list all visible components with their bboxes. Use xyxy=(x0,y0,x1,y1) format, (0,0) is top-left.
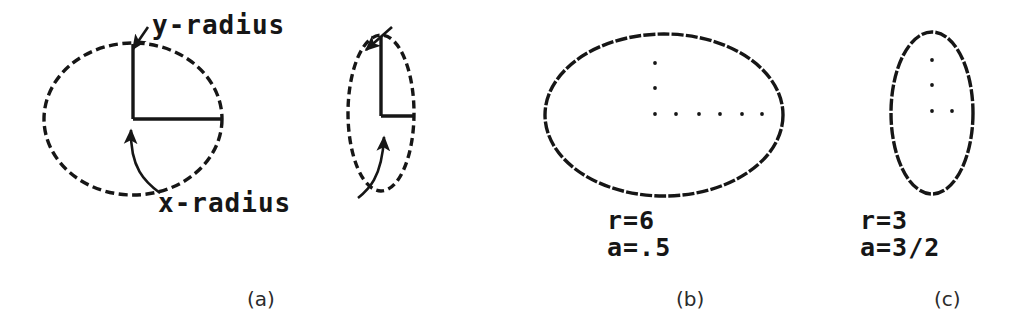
panel-c-caption: (c) xyxy=(934,287,961,311)
panel-a-x-radius-label: x-radius xyxy=(158,190,291,216)
panel-a-y-radius-leader xyxy=(133,27,148,49)
panel-b-interior-dots xyxy=(653,61,764,116)
panel-c-interior-dots xyxy=(930,58,954,113)
panel-c-ellipse-outline xyxy=(891,32,973,194)
panel-a-y-radius-label: y-radius xyxy=(152,12,285,38)
ellipse-parameters-figure: y-radius x-radius r=6 a=.5 r=3 a=3/2 (a)… xyxy=(0,0,1011,332)
panel-a-x-radius-leader xyxy=(131,130,160,193)
panel-c-param-r: r=3 xyxy=(860,207,908,234)
panel-a-caption: (a) xyxy=(247,287,275,311)
panel-b-caption: (b) xyxy=(676,287,704,311)
panel-b-param-r: r=6 xyxy=(607,207,655,234)
panel-b-ellipse-outline xyxy=(545,34,783,196)
panel-c-param-a: a=3/2 xyxy=(860,234,940,261)
panel-b-param-a: a=.5 xyxy=(607,234,671,261)
figure-canvas xyxy=(0,0,1011,332)
